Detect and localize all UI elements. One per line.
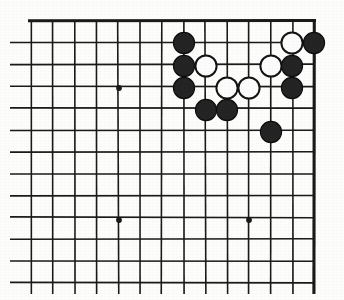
black-stone-b7-disc[interactable] — [195, 99, 216, 120]
white-stone-w3[interactable] — [260, 55, 281, 76]
white-stone-w4-disc[interactable] — [216, 77, 237, 98]
black-stone-b5[interactable] — [173, 77, 194, 98]
grid-col-6 — [161, 21, 162, 294]
star-point-left-upper — [116, 85, 122, 91]
black-stone-b4-disc[interactable] — [281, 55, 302, 76]
black-stone-b2[interactable] — [303, 32, 324, 53]
black-stone-b9-disc[interactable] — [260, 121, 281, 142]
white-stone-w2[interactable] — [195, 55, 216, 76]
black-stone-b1[interactable] — [173, 32, 194, 53]
black-stone-b9[interactable] — [260, 121, 281, 142]
black-stone-b6-disc[interactable] — [281, 77, 302, 98]
black-stone-b5-disc[interactable] — [173, 77, 194, 98]
white-stone-w3-disc[interactable] — [260, 55, 281, 76]
white-stone-w2-disc[interactable] — [195, 55, 216, 76]
white-stone-w5[interactable] — [238, 77, 259, 98]
black-stone-b8-disc[interactable] — [216, 99, 237, 120]
black-stone-b7[interactable] — [195, 99, 216, 120]
white-stone-w5-disc[interactable] — [238, 77, 259, 98]
white-stone-w1[interactable] — [281, 32, 302, 53]
go-board-figure — [0, 0, 344, 300]
black-stone-b2-disc[interactable] — [303, 32, 324, 53]
black-stone-b6[interactable] — [281, 77, 302, 98]
star-point-left-lower — [116, 217, 122, 223]
white-stone-w1-disc[interactable] — [281, 32, 302, 53]
black-stone-b3[interactable] — [173, 55, 194, 76]
black-stone-b3-disc[interactable] — [173, 55, 194, 76]
white-stone-w4[interactable] — [216, 77, 237, 98]
star-point-center-lower — [246, 217, 252, 223]
black-stone-b1-disc[interactable] — [173, 32, 194, 53]
grid-col-4 — [118, 21, 119, 294]
black-stone-b4[interactable] — [281, 55, 302, 76]
black-stone-b8[interactable] — [216, 99, 237, 120]
go-board-grid[interactable] — [0, 0, 344, 300]
